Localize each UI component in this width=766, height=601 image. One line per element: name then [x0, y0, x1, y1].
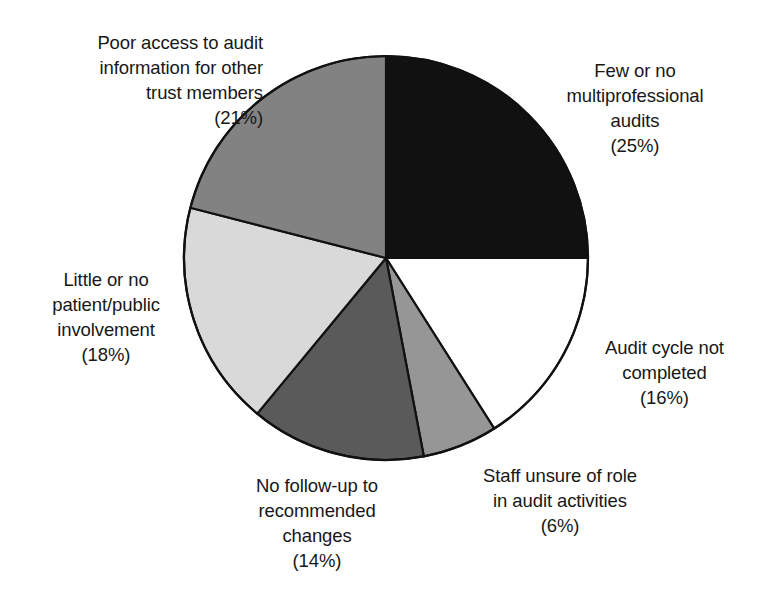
pie-label-staff-unsure-of-role: Staff unsure of role in audit activities…	[440, 463, 680, 538]
pie-label-audit-cycle-not-completed: Audit cycle not completed (16%)	[572, 335, 757, 410]
pie-chart-figure: Poor access to audit information for oth…	[0, 0, 766, 601]
pie-label-little-or-no-patient-public-involvement: Little or no patient/public involvement …	[16, 267, 196, 367]
pie-label-poor-access-to-audit-information: Poor access to audit information for oth…	[18, 30, 263, 130]
pie-label-no-follow-up-to-recommended-changes: No follow-up to recommended changes (14%…	[208, 473, 426, 573]
pie-label-few-or-no-multiprofessional-audits: Few or no multiprofessional audits (25%)	[520, 58, 750, 158]
